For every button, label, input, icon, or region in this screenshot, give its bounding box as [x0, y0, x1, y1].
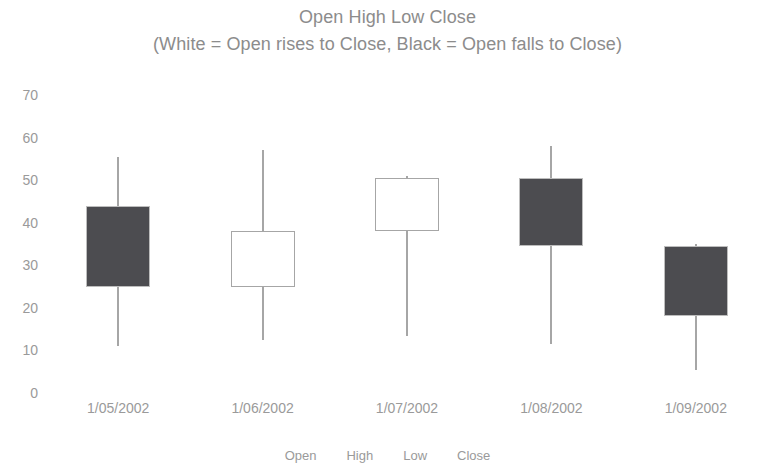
candlestick-body: [375, 178, 439, 231]
x-tick-label: 1/05/2002: [87, 398, 149, 418]
y-tick-label: 70: [22, 88, 38, 102]
legend-item[interactable]: Close: [457, 447, 490, 465]
candlestick-body: [664, 246, 728, 316]
y-tick-label: 30: [22, 258, 38, 272]
candlestick-body: [519, 178, 583, 246]
chart-subtitle: (White = Open rises to Close, Black = Op…: [0, 31, 775, 58]
x-tick-label: 1/07/2002: [376, 398, 438, 418]
x-tick-label: 1/08/2002: [520, 398, 582, 418]
legend-item[interactable]: Low: [403, 447, 427, 465]
y-tick-label: 0: [30, 386, 38, 400]
candlestick-chart: Open High Low Close (White = Open rises …: [0, 0, 775, 472]
y-tick-label: 60: [22, 131, 38, 145]
legend-item[interactable]: Open: [285, 447, 317, 465]
candlestick-body: [231, 231, 295, 286]
candlestick[interactable]: [664, 95, 728, 393]
x-axis: 1/05/20021/06/20021/07/20021/08/20021/09…: [46, 398, 768, 422]
plot-area: [46, 95, 768, 393]
page-title: Open High Low Close: [0, 4, 775, 31]
candlestick-body: [86, 206, 150, 287]
legend-item[interactable]: High: [346, 447, 373, 465]
candlestick[interactable]: [231, 95, 295, 393]
y-tick-label: 20: [22, 301, 38, 315]
x-tick-label: 1/09/2002: [665, 398, 727, 418]
candlestick[interactable]: [86, 95, 150, 393]
y-axis: 706050403020100: [0, 95, 44, 393]
candlestick[interactable]: [519, 95, 583, 393]
y-tick-label: 40: [22, 216, 38, 230]
chart-title-block: Open High Low Close (White = Open rises …: [0, 4, 775, 58]
chart-legend: OpenHighLowClose: [0, 447, 775, 465]
y-tick-label: 50: [22, 173, 38, 187]
y-tick-label: 10: [22, 343, 38, 357]
x-tick-label: 1/06/2002: [231, 398, 293, 418]
candlestick[interactable]: [375, 95, 439, 393]
